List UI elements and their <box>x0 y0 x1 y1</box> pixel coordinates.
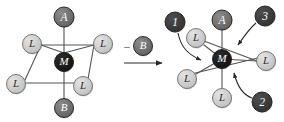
node-label: L <box>12 77 19 89</box>
diagram-canvas: LLLLABM LLLALM 123 –B <box>0 0 284 122</box>
node-label: 3 <box>261 10 268 22</box>
node-label: M <box>58 55 69 67</box>
node-label: B <box>140 39 147 51</box>
attack-arrow-3 <box>238 23 256 45</box>
node-label: 1 <box>172 16 178 28</box>
reactant-node-a: A <box>54 7 75 28</box>
product-node-l: L <box>257 52 277 72</box>
node-label: L <box>183 72 190 84</box>
reactant-node-l: L <box>7 75 27 95</box>
attack-node-2: 2 <box>252 92 273 113</box>
product-node-a: A <box>212 10 233 31</box>
product-node-l: L <box>213 89 233 109</box>
node-label: L <box>28 37 35 49</box>
node-label: A <box>59 11 68 23</box>
attack-node-3: 3 <box>255 6 276 27</box>
attack-node-1: 1 <box>165 12 186 33</box>
reactant-node-l: L <box>94 35 114 55</box>
reactant-node-group: LLLLABM <box>7 7 114 118</box>
attack-arrow-2 <box>234 73 252 98</box>
node-label: L <box>192 31 199 43</box>
reactant-node-m: M <box>55 53 75 73</box>
product-node-m: M <box>213 50 233 70</box>
product-node-l: L <box>178 70 198 90</box>
reactant-node-b: B <box>55 99 75 119</box>
bond <box>88 45 94 79</box>
reaction-condition: –B <box>123 37 153 57</box>
node-label: L <box>79 79 86 91</box>
product-node-l: L <box>187 29 207 49</box>
minus-sign: – <box>123 40 130 52</box>
condition-node-b: B <box>134 37 154 57</box>
bond <box>64 45 94 53</box>
node-label: A <box>217 14 226 26</box>
reactant-node-l: L <box>23 35 43 55</box>
node-label: M <box>216 52 227 64</box>
node-label: L <box>262 54 269 66</box>
reaction-scheme-figure: LLLLABM LLLALM 123 –B <box>0 0 284 122</box>
reactant-node-l: L <box>74 77 94 97</box>
bond <box>41 45 64 53</box>
node-label: L <box>99 37 106 49</box>
node-label: 2 <box>259 96 265 108</box>
node-label: B <box>61 101 68 113</box>
node-label: L <box>218 91 225 103</box>
